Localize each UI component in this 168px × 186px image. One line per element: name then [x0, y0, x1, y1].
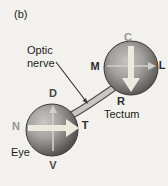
eye-label-nasal: N [12, 120, 20, 132]
eye-label-temporal: T [82, 119, 89, 131]
tectum-label-lateral: L [159, 59, 166, 71]
tectum-label-caudal: C [124, 31, 132, 43]
optic-nerve-label-line1: Optic [27, 44, 55, 57]
eye-name: Eye [11, 146, 30, 159]
optic-nerve-pointer-line [56, 62, 85, 100]
tectum-name: Tectum [104, 108, 139, 121]
optic-nerve-label-line2: nerve [27, 57, 55, 70]
optic-nerve-label: Optic nerve [27, 44, 55, 70]
figure-label: (b) [14, 8, 27, 20]
retinotectal-diagram: (b) Optic nerve D V N T C R M L Eye Tect… [0, 0, 168, 186]
eye-label-ventral: V [49, 159, 56, 171]
eye-label-dorsal: D [49, 87, 57, 99]
tectum-label-rostral: R [117, 95, 125, 107]
tectum-label-medial: M [90, 60, 99, 72]
